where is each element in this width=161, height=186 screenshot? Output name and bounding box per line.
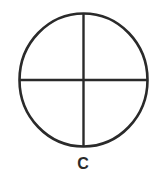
- diagram-label: C: [0, 155, 161, 173]
